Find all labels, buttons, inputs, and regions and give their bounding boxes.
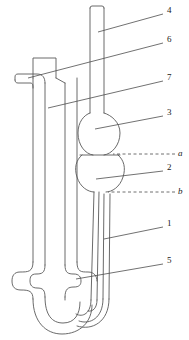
side-arm-stub-outer (33, 58, 56, 78)
capillary-outer-bend-2 (77, 299, 109, 327)
lower-bulb-left-wall (76, 155, 94, 192)
callout-label-b: b (178, 187, 183, 196)
side-arm-shoulder (56, 78, 65, 83)
bottom-u-outer-wall (33, 299, 92, 334)
leader-lines (28, 14, 163, 279)
callout-label-4: 4 (167, 6, 172, 15)
leader-4 (98, 14, 163, 32)
side-arm-lower-wall (15, 80, 33, 88)
upper-tube-rim (90, 6, 104, 8)
callout-label-3: 3 (167, 108, 172, 117)
viscometer-drawing (0, 0, 189, 340)
reservoir-left-bulge-inner (30, 265, 45, 297)
leader-6 (28, 43, 163, 78)
capillary-inner-right-wall (97, 192, 99, 300)
capillary-inner-left-wall (91, 192, 94, 300)
upper-bulb-left-wall (78, 113, 93, 155)
callout-label-7: 7 (167, 73, 172, 82)
capillary-outer-left-wall (103, 194, 104, 299)
callout-label-6: 6 (167, 35, 172, 44)
leader-5 (76, 264, 163, 279)
leader-1 (104, 227, 163, 239)
figure-container: 4 6 7 3 a 2 b 1 5 (0, 0, 189, 340)
lower-bulb-right-wall (106, 155, 124, 192)
side-arm-upper-wall (15, 74, 45, 83)
capillary-outer-right-wall (109, 194, 110, 299)
leader-3 (95, 116, 163, 129)
leader-2 (96, 171, 163, 179)
callout-label-2: 2 (167, 163, 172, 172)
upper-bulb-right-wall (104, 113, 120, 155)
glassware-outline (12, 6, 124, 334)
bottom-u-inner-wall (45, 297, 80, 323)
callout-label-5: 5 (167, 256, 172, 265)
callout-label-1: 1 (167, 219, 172, 228)
callout-label-a: a (178, 149, 183, 158)
